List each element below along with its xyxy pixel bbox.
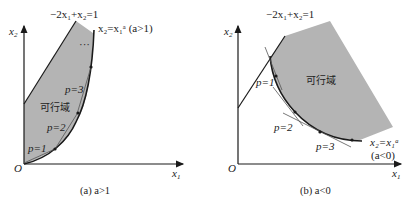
curve-label-a: x₂=x₁ᵃ (a>1) bbox=[98, 22, 153, 35]
panel-b: x2 x1 O −2x₁+x₂=1 x₂=x₁ᵃ (a<0) 可行域 p=1 p… bbox=[223, 8, 401, 197]
p3-label-a: p=3 bbox=[64, 83, 84, 95]
diagram: x2 x1 O −2x₁+x₂=1 x₂=x₁ᵃ (a>1) ··· 可行域 p… bbox=[0, 0, 409, 202]
ellipsis-a: ··· bbox=[79, 38, 90, 50]
x-axis-label-b: x1 bbox=[391, 167, 400, 181]
p2-label-b: p=2 bbox=[273, 121, 293, 133]
x-axis-label-a: x1 bbox=[171, 167, 180, 181]
region-label-b: 可行域 bbox=[306, 74, 336, 86]
p2-label-a: p=2 bbox=[46, 121, 66, 133]
origin-b: O bbox=[228, 162, 236, 174]
p1-label-a: p=1 bbox=[27, 142, 46, 154]
caption-b: (b) a<0 bbox=[300, 185, 331, 197]
y-axis-label-b: x2 bbox=[223, 25, 233, 39]
origin-a: O bbox=[14, 162, 22, 174]
curve-label-b: x₂=x₁ᵃ bbox=[369, 136, 399, 148]
p1-label-b: p=1 bbox=[255, 76, 274, 88]
y-axis-label-a: x2 bbox=[8, 25, 18, 39]
region-label-a: 可行域 bbox=[40, 101, 70, 113]
caption-a: (a) a>1 bbox=[80, 185, 110, 197]
curve-condition-b: (a<0) bbox=[371, 149, 395, 162]
line-label-a: −2x₁+x₂=1 bbox=[50, 8, 98, 20]
p3-label-b: p=3 bbox=[315, 140, 335, 152]
panel-a: x2 x1 O −2x₁+x₂=1 x₂=x₁ᵃ (a>1) ··· 可行域 p… bbox=[8, 8, 183, 197]
line-label-b: −2x₁+x₂=1 bbox=[266, 8, 314, 20]
